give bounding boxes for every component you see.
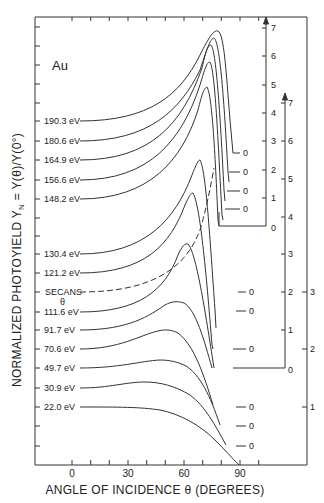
curve-111-6 <box>80 244 214 368</box>
curve-label-30-9: 30.9 eV <box>44 383 75 393</box>
axis1-tick-6: 6 <box>271 51 276 61</box>
zero-labels: 0 0 0 0 0 0 0 0 0 0 <box>243 148 254 451</box>
axis2-tick-0: 0 <box>288 365 293 375</box>
curve-label-70-6: 70.6 eV <box>44 344 75 354</box>
axis2-tick-1: 1 <box>288 325 293 335</box>
curve-label-111-6: 111.6 eV <box>44 307 79 317</box>
axis1-tick-2: 2 <box>271 165 276 175</box>
x-tick-0: 0 <box>69 468 75 479</box>
photoyield-chart: 0 30 60 90 ANGLE OF INCIDENCE θ (DEGREES… <box>0 0 324 503</box>
axis2-tick-4: 4 <box>288 212 293 222</box>
x-tick-60: 60 <box>178 468 190 479</box>
zero-label: 0 <box>249 441 254 451</box>
zero-label: 0 <box>249 421 254 431</box>
curve-164-9 <box>80 45 225 201</box>
curve-22-0 <box>80 407 239 465</box>
curve-label-22-0: 22.0 eV <box>44 402 75 412</box>
right-axis-1-labels: 7 6 5 4 3 2 1 0 <box>271 23 276 233</box>
x-axis-label: ANGLE OF INCIDENCE θ (DEGREES) <box>45 483 264 497</box>
right-axis-3 <box>302 292 307 407</box>
curve-labels: 190.3 eV 180.6 eV 164.9 eV 156.6 eV 148.… <box>44 116 82 412</box>
axis2-tick-2: 2 <box>288 287 293 297</box>
x-tick-90: 90 <box>234 468 246 479</box>
x-tick-labels: 0 30 60 90 <box>69 468 246 479</box>
zero-label: 0 <box>243 148 248 158</box>
curve-label-91-7: 91.7 eV <box>44 325 75 335</box>
curve-label-164-9: 164.9 eV <box>44 155 80 165</box>
curve-label-130-4: 130.4 eV <box>44 249 80 259</box>
curve-label-secans: SECANS <box>45 287 82 297</box>
curve-label-190-3: 190.3 eV <box>44 116 80 126</box>
zero-label: 0 <box>249 344 254 354</box>
curve-label-156-6: 156.6 eV <box>44 175 80 185</box>
curve-121-2 <box>80 193 213 349</box>
arrow-up-icon <box>283 93 288 100</box>
curve-130-4 <box>80 160 216 328</box>
axis1-tick-4: 4 <box>271 108 276 118</box>
right-axis-2 <box>281 93 288 368</box>
axis1-tick-5: 5 <box>271 80 276 90</box>
zero-label: 0 <box>249 287 254 297</box>
axis2-tick-3: 3 <box>288 249 293 259</box>
axis2-tick-6: 6 <box>288 136 293 146</box>
arrow-up-icon <box>264 17 269 24</box>
axis3-tick-3: 3 <box>310 287 315 297</box>
curve-secans <box>80 168 214 292</box>
zero-label: 0 <box>243 186 248 196</box>
right-axis-3-labels: 3 2 1 <box>310 287 315 412</box>
axis2-tick-5: 5 <box>288 174 293 184</box>
curve-49-7 <box>80 360 220 425</box>
curves <box>80 31 239 465</box>
curve-label-49-7: 49.7 eV <box>44 363 75 373</box>
zero-label: 0 <box>243 167 248 177</box>
axis2-tick-7: 7 <box>288 98 293 108</box>
y-axis-label-main: NORMALIZED PHOTOYIELD Y <box>10 210 24 387</box>
curve-label-secans-theta: θ <box>60 297 65 307</box>
curve-label-148-2: 148.2 eV <box>44 194 80 204</box>
y-axis-label-rest: = Y(θ)/Y(0°) <box>10 133 24 204</box>
y-axis-label: NORMALIZED PHOTOYIELD YN = Y(θ)/Y(0°) <box>10 133 26 387</box>
right-axis-2-labels: 7 6 5 4 3 2 1 0 <box>288 98 293 375</box>
axis1-tick-7: 7 <box>271 23 276 33</box>
curve-label-180-6: 180.6 eV <box>44 136 80 146</box>
left-axis-ticks <box>35 27 40 446</box>
curve-180-6 <box>80 38 229 182</box>
axis1-tick-1: 1 <box>271 193 276 203</box>
element-label: Au <box>52 58 68 73</box>
curve-label-121-2: 121.2 eV <box>44 268 80 278</box>
x-tick-30: 30 <box>122 468 134 479</box>
axis3-tick-1: 1 <box>310 402 315 412</box>
curve-30-9 <box>80 382 226 445</box>
curve-190-3 <box>80 31 233 153</box>
axis3-tick-2: 2 <box>310 344 315 354</box>
axis1-tick-0: 0 <box>271 223 276 233</box>
zero-label: 0 <box>249 402 254 412</box>
zero-label: 0 <box>243 204 248 214</box>
zero-label: 0 <box>249 306 254 316</box>
axis1-tick-3: 3 <box>271 136 276 146</box>
right-axis-1 <box>262 17 269 226</box>
